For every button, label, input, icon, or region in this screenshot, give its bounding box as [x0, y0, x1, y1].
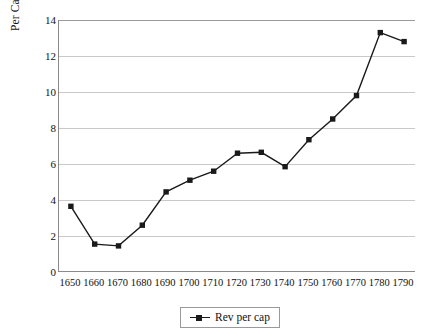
y-axis-tick-label: 6	[28, 159, 56, 170]
data-point-marker	[378, 30, 383, 35]
data-point-marker	[330, 116, 335, 121]
y-axis-tick-label: 14	[28, 15, 56, 26]
x-axis-tick-labels: 1650166016701680169017001710172017301740…	[58, 276, 415, 292]
data-point-marker	[211, 169, 216, 174]
data-point-marker	[92, 241, 97, 246]
data-point-marker	[187, 178, 192, 183]
y-axis-title: Per Capita Revenues (in grams of gold)	[4, 0, 26, 64]
per-capita-revenues-line-chart: Per Capita Revenues (in grams of gold) 0…	[0, 0, 426, 336]
data-point-marker	[116, 243, 121, 248]
y-axis-tick-label: 12	[28, 51, 56, 62]
y-axis-tick-label: 2	[28, 231, 56, 242]
y-axis-tick-label: 4	[28, 195, 56, 206]
y-axis-tick-label: 0	[28, 267, 56, 278]
data-point-marker	[401, 39, 406, 44]
plot-area	[58, 20, 415, 272]
y-axis-tick-label: 10	[28, 87, 56, 98]
data-point-marker	[163, 189, 168, 194]
data-series-layer	[59, 20, 416, 272]
y-axis-tick-label: 8	[28, 123, 56, 134]
data-point-marker	[140, 223, 145, 228]
legend-label: Rev per cap	[215, 311, 270, 324]
series-markers-rev-per-cap	[68, 30, 407, 249]
chart-legend: Rev per cap	[180, 307, 280, 328]
series-line-rev-per-cap	[71, 33, 404, 246]
x-axis-tick-label: 1790	[386, 276, 420, 290]
data-point-marker	[282, 164, 287, 169]
data-point-marker	[354, 93, 359, 98]
data-point-marker	[306, 137, 311, 142]
legend-square-marker	[190, 313, 210, 323]
data-point-marker	[68, 204, 73, 209]
y-axis-tick-labels: 02468101214	[28, 20, 56, 272]
data-point-marker	[259, 150, 264, 155]
data-point-marker	[235, 151, 240, 156]
